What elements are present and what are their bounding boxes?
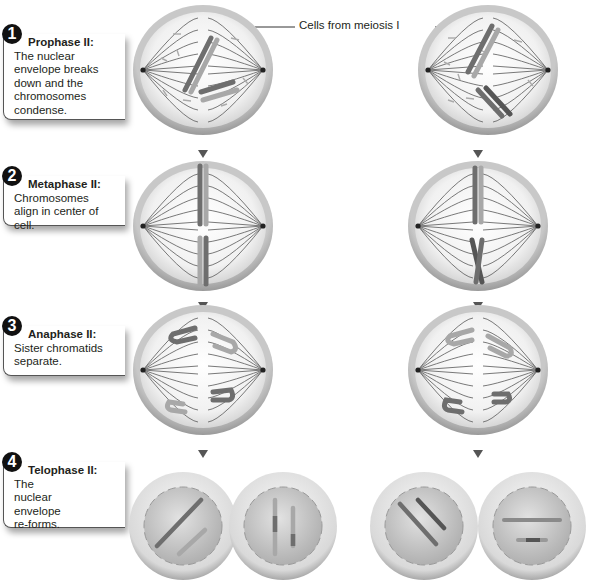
cell-metaphase-right — [408, 161, 548, 291]
daughter-cell-4 — [478, 472, 586, 580]
cell-anaphase-right — [408, 305, 548, 435]
cells-from-meiosis-label: Cells from meiosis I — [296, 19, 402, 31]
arrow-down-right-3 — [473, 438, 483, 458]
arrow-down-left-1 — [198, 138, 208, 158]
cell-anaphase-left — [133, 305, 273, 435]
daughter-cell-1 — [129, 472, 237, 580]
daughter-cell-2 — [229, 472, 337, 580]
arrow-down-left-3 — [198, 438, 208, 458]
arrow-down-right-1 — [473, 138, 483, 158]
cell-prophase-right — [418, 5, 558, 135]
daughter-cell-3 — [370, 472, 478, 580]
cell-metaphase-left — [133, 161, 273, 291]
cell-prophase-left — [133, 5, 273, 135]
meiosis-ii-illustration — [0, 0, 591, 586]
